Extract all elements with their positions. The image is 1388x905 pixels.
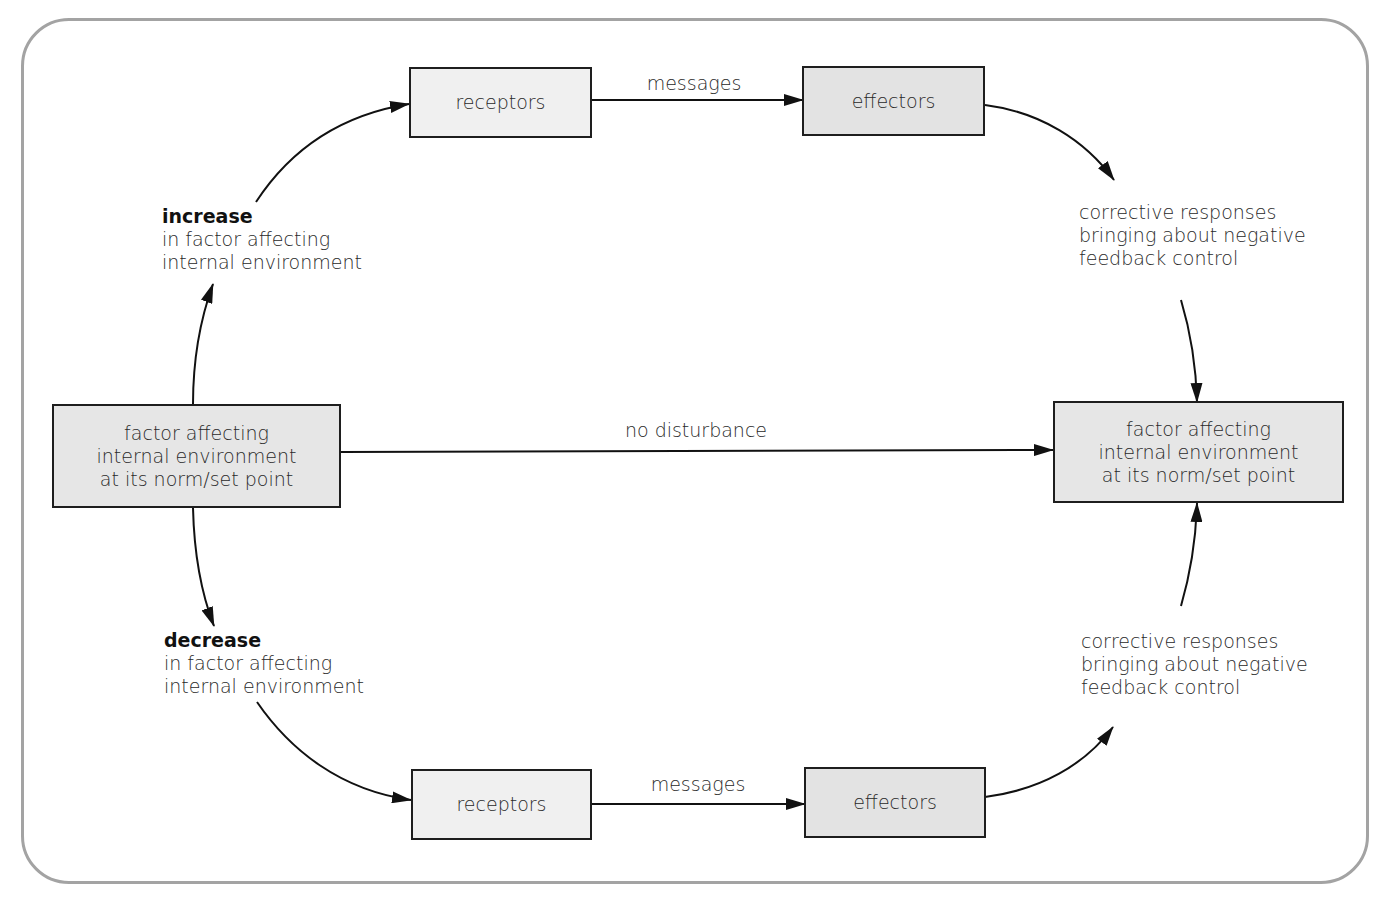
top-effectors-label: effectors (852, 90, 936, 113)
arrow-bottom-effectors-to-response (985, 727, 1113, 797)
top-receptors-box: receptors (409, 67, 592, 138)
arrow-bottom-response-to-state (1181, 503, 1197, 606)
top-effectors-box: effectors (802, 66, 985, 136)
decrease-label-line-2: internal environment (164, 675, 364, 698)
top-receptors-label: receptors (455, 91, 545, 114)
decrease-label: decrease in factor affecting internal en… (164, 629, 364, 698)
left-state-line-1: factor affecting (97, 422, 297, 445)
left-state-line-2: internal environment (97, 445, 297, 468)
bottom-receptors-label: receptors (456, 793, 546, 816)
arrow-increase-to-receptors (256, 104, 409, 202)
arrow-top-effectors-to-response (985, 105, 1114, 180)
increase-label-line-1: in factor affecting (162, 228, 362, 251)
bottom-response-line-1: corrective responses (1081, 630, 1308, 653)
left-state-box: factor affecting internal environment at… (52, 404, 341, 508)
top-response-line-3: feedback control (1079, 247, 1306, 270)
decrease-label-line-1: in factor affecting (164, 652, 364, 675)
increase-label: increase in factor affecting internal en… (162, 205, 362, 274)
arrow-no-disturbance (341, 450, 1053, 452)
bottom-receptors-box: receptors (411, 769, 592, 840)
decrease-label-bold: decrease (164, 629, 364, 652)
increase-label-bold: increase (162, 205, 362, 228)
bottom-response-label: corrective responses bringing about nega… (1081, 630, 1308, 699)
increase-label-line-2: internal environment (162, 251, 362, 274)
arrow-state-to-increase (193, 284, 213, 404)
bottom-response-line-2: bringing about negative (1081, 653, 1308, 676)
arrow-state-to-decrease (193, 508, 214, 626)
right-state-box: factor affecting internal environment at… (1053, 401, 1344, 503)
bottom-response-line-3: feedback control (1081, 676, 1308, 699)
bottom-effectors-label: effectors (853, 791, 937, 814)
left-state-line-3: at its norm/set point (97, 468, 297, 491)
arrow-decrease-to-receptors (257, 702, 411, 800)
top-response-line-1: corrective responses (1079, 201, 1306, 224)
no-disturbance-label: no disturbance (596, 419, 796, 442)
arrow-top-response-to-state (1181, 300, 1197, 402)
top-messages-label: messages (634, 72, 754, 95)
bottom-messages-label: messages (638, 773, 758, 796)
top-response-line-2: bringing about negative (1079, 224, 1306, 247)
bottom-effectors-box: effectors (804, 767, 986, 838)
right-state-line-3: at its norm/set point (1099, 464, 1299, 487)
right-state-line-1: factor affecting (1099, 418, 1299, 441)
right-state-line-2: internal environment (1099, 441, 1299, 464)
top-response-label: corrective responses bringing about nega… (1079, 201, 1306, 270)
